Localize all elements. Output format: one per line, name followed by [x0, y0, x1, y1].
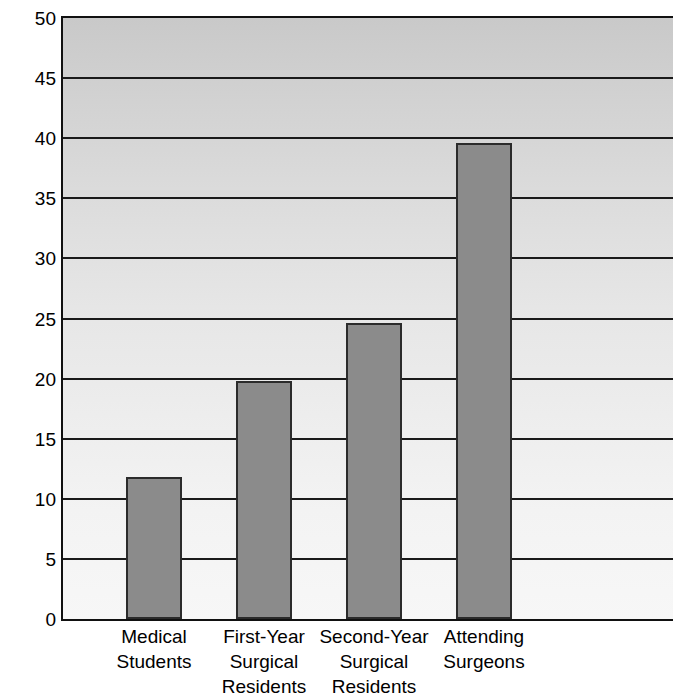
y-tick-label: 20 [26, 369, 56, 388]
y-tick-label: 45 [26, 69, 56, 88]
y-axis-tick-labels: 05101520253035404550 [22, 0, 56, 700]
plot-area [63, 18, 673, 619]
gridline [63, 137, 673, 139]
bar [126, 477, 182, 619]
gridline [63, 197, 673, 199]
gridline [63, 318, 673, 320]
y-tick-label: 5 [26, 549, 56, 568]
y-tick-label: 40 [26, 129, 56, 148]
gridline [63, 257, 673, 259]
gridline [63, 77, 673, 79]
y-tick-label: 15 [26, 429, 56, 448]
bar [346, 323, 402, 619]
y-tick-label: 35 [26, 189, 56, 208]
x-axis-tick-labels: Medical StudentsFirst-Year Surgical Resi… [0, 624, 673, 700]
y-tick-label: 50 [26, 9, 56, 28]
y-tick-label: 25 [26, 309, 56, 328]
bar [236, 381, 292, 619]
y-tick-label: 30 [26, 249, 56, 268]
x-tick-label: Attending Surgeons [409, 624, 559, 674]
bar-chart-figure: Positive Hepatitis B Serology (%) 051015… [0, 0, 673, 700]
y-tick-label: 10 [26, 489, 56, 508]
bar [456, 143, 512, 619]
